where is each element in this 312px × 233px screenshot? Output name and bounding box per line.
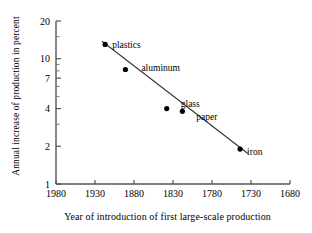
plot-area: 20107421 1980193018801830178017301680 pl… <box>0 0 312 233</box>
data-point-aluminum <box>123 67 128 72</box>
x-axis-ticks: 1980193018801830178017301680 <box>46 180 300 199</box>
x-tick-label: 1730 <box>241 188 261 199</box>
chart-figure: Annual increase of production in percent… <box>0 0 312 233</box>
label-aluminum: aluminum <box>141 63 180 73</box>
data-point-glass <box>164 106 169 111</box>
y-tick-label: 2 <box>45 141 50 152</box>
label-paper: paper <box>196 112 218 122</box>
data-point-paper <box>180 109 185 114</box>
x-tick-label: 1680 <box>280 188 300 199</box>
x-tick-label: 1830 <box>163 188 183 199</box>
y-tick-label: 10 <box>40 53 50 64</box>
trend-line-segment <box>102 41 248 153</box>
data-point-labels: plasticsaluminumglasspaperiron <box>112 40 262 157</box>
label-plastics: plastics <box>112 40 141 50</box>
data-point-plastics <box>103 42 108 47</box>
x-tick-label: 1980 <box>46 188 66 199</box>
y-tick-label: 20 <box>40 16 50 27</box>
x-tick-label: 1880 <box>124 188 144 199</box>
x-tick-label: 1780 <box>202 188 222 199</box>
y-tick-label: 7 <box>45 73 50 84</box>
label-iron: iron <box>247 147 263 157</box>
trend-line <box>102 41 248 153</box>
y-axis-ticks: 20107421 <box>40 16 61 190</box>
data-point-iron <box>237 146 242 151</box>
y-tick-label: 4 <box>45 103 50 114</box>
x-tick-label: 1930 <box>85 188 105 199</box>
label-glass: glass <box>181 99 200 109</box>
